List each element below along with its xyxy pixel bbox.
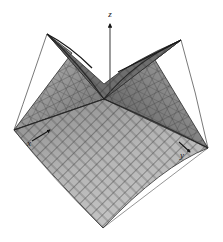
surface-plot-svg: z x y bbox=[0, 0, 223, 242]
x-axis-label: x bbox=[26, 138, 31, 148]
y-axis-label: y bbox=[179, 150, 184, 160]
surface-plot-figure: z x y bbox=[0, 0, 223, 242]
z-axis-label: z bbox=[107, 9, 112, 19]
